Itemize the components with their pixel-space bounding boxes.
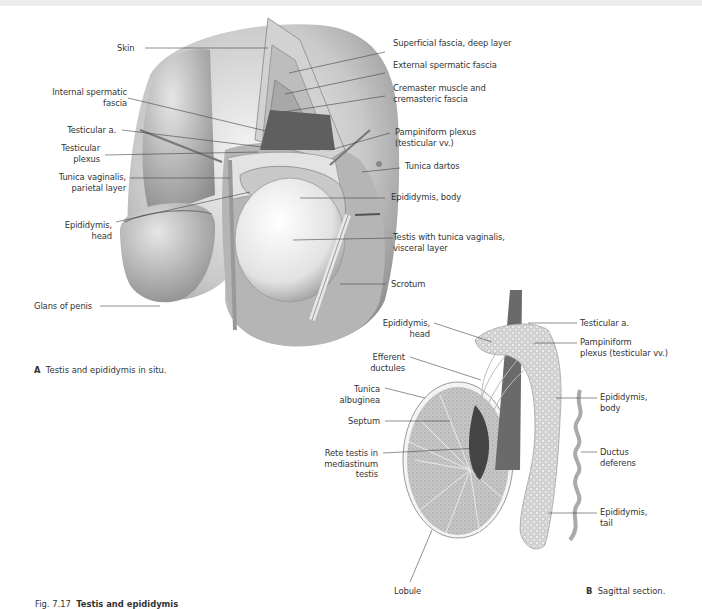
label-skin: Skin [117, 43, 134, 54]
label-efferent-ductules: Efferent ductules [355, 352, 405, 373]
label-cremaster-muscle: Cremaster muscle and cremasteric fascia [393, 83, 486, 104]
figure-title: Testis and epididymis [76, 599, 178, 609]
label-b-epididymis-head: Epididymis, head [370, 318, 430, 339]
panel-b-caption: B Sagittal section. [586, 586, 665, 597]
label-rete-testis: Rete testis in mediastinum testis [318, 448, 378, 480]
label-pampiniform-plexus: Pampiniform plexus (testicular vv.) [395, 127, 476, 148]
label-ductus-deferens: Ductus deferens [600, 447, 636, 468]
label-testicular-a: Testicular a. [50, 125, 116, 136]
label-tunica-albuginea: Tunica albuginea [330, 384, 380, 405]
label-epididymis-tail: Epididymis, tail [600, 507, 647, 528]
panel-a-letter: A [34, 365, 40, 375]
label-superficial-fascia: Superficial fascia, deep layer [393, 38, 511, 49]
figure-caption: Fig. 7.17 Testis and epididymis [35, 599, 178, 609]
label-epididymis-head: Epididymis, head [50, 220, 112, 241]
label-testis-tunica-vaginalis-visceral: Testis with tunica vaginalis, visceral l… [393, 232, 505, 253]
label-tunica-vaginalis-parietal: Tunica vaginalis, parietal layer [40, 172, 126, 193]
panel-b-letter: B [586, 586, 592, 596]
label-glans-of-penis: Glans of penis [34, 301, 92, 312]
label-b-epididymis-body: Epididymis, body [600, 392, 647, 413]
label-b-testicular-a: Testicular a. [580, 318, 629, 329]
label-internal-spermatic-fascia: Internal spermatic fascia [47, 87, 127, 108]
label-tunica-dartos: Tunica dartos [405, 161, 460, 172]
label-testicular-plexus: Testicular plexus [40, 143, 100, 164]
label-septum: Septum [330, 416, 380, 427]
label-epididymis-body: Epididymis, body [391, 192, 461, 203]
figure-number: Fig. 7.17 [35, 599, 71, 609]
label-scrotum: Scrotum [391, 279, 425, 290]
label-lobule: Lobule [394, 586, 421, 597]
label-external-spermatic-fascia: External spermatic fascia [393, 60, 497, 71]
label-b-pampiniform-plexus: Pampiniform plexus (testicular vv.) [580, 337, 668, 358]
panel-a-caption: A Testis and epididymis in situ. [34, 365, 167, 376]
